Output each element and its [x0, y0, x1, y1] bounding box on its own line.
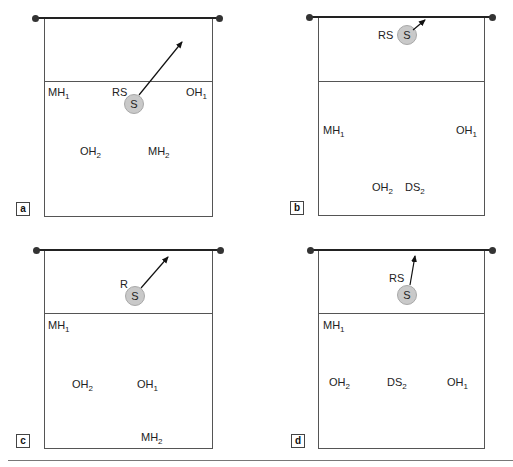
player-label-mh2: MH2 [148, 146, 170, 157]
player-label-oh2: OH2 [80, 146, 101, 157]
panel-label-a: a [16, 202, 30, 216]
player-label-mh1: MH1 [48, 320, 70, 331]
player-number: 1 [473, 130, 477, 139]
player-label-ds2: DS2 [405, 182, 425, 193]
setter-ball-icon: S [125, 286, 145, 306]
player-number: 2 [389, 187, 393, 196]
player-number: 1 [340, 325, 344, 334]
player-number: 1 [65, 325, 69, 334]
player-number: 2 [89, 384, 93, 393]
attack-line [318, 81, 484, 82]
player-role: OH [456, 124, 473, 136]
net-line [310, 249, 492, 251]
net-post-left [307, 247, 314, 254]
player-label-oh1: OH1 [137, 379, 158, 390]
net-post-left [33, 247, 40, 254]
player-label-oh1: OH1 [186, 87, 207, 98]
player-label-oh1: OH1 [456, 125, 477, 136]
attack-line [44, 313, 212, 314]
player-role: DS [405, 181, 420, 193]
player-number: 1 [65, 92, 69, 101]
player-role: OH [137, 378, 154, 390]
player-role: MH [323, 319, 340, 331]
net-post-right [216, 15, 223, 22]
setter-ball-icon: S [124, 94, 144, 114]
player-role: RS [389, 272, 404, 284]
player-label-ds2: DS2 [387, 377, 407, 388]
court-outline [318, 16, 485, 216]
bottom-rule [8, 460, 513, 461]
net-line [35, 17, 219, 19]
player-number: 2 [97, 151, 101, 160]
player-label-rs: RS [112, 87, 127, 98]
player-role: OH [80, 145, 97, 157]
net-post-left [32, 15, 39, 22]
player-role: OH [372, 181, 389, 193]
player-label-rs: RS [378, 30, 393, 41]
player-label-mh2: MH2 [141, 432, 163, 443]
court-outline [44, 249, 213, 449]
player-role: MH [48, 86, 65, 98]
player-role: MH [48, 319, 65, 331]
player-number: 1 [203, 92, 207, 101]
player-number: 2 [158, 437, 162, 446]
player-label-oh2: OH2 [72, 379, 93, 390]
player-number: 2 [165, 151, 169, 160]
panel-label-b: b [290, 201, 304, 215]
net-post-right [217, 247, 224, 254]
player-role: OH [447, 376, 464, 388]
player-role: DS [387, 376, 402, 388]
player-number: 1 [154, 384, 158, 393]
player-role: MH [148, 145, 165, 157]
player-label-oh2: OH2 [372, 182, 393, 193]
player-role: RS [112, 86, 127, 98]
player-label-oh1: OH1 [447, 377, 468, 388]
net-line [36, 249, 220, 251]
player-number: 2 [402, 382, 406, 391]
net-post-left [306, 14, 313, 21]
volleyball-rotation-figure: MH1RSOH1OH2MH2SaRSMH1OH1OH2DS2SbRMH1OH2O… [0, 0, 513, 467]
court-outline [44, 17, 213, 217]
player-role: MH [141, 431, 158, 443]
attack-line [318, 313, 484, 314]
player-number: 1 [464, 382, 468, 391]
player-number: 2 [346, 382, 350, 391]
player-role: MH [323, 124, 340, 136]
player-role: OH [72, 378, 89, 390]
net-line [309, 16, 492, 18]
player-number: 2 [420, 187, 424, 196]
player-label-oh2: OH2 [329, 377, 350, 388]
setter-ball-icon: S [397, 25, 417, 45]
player-role: OH [186, 86, 203, 98]
player-label-mh1: MH1 [323, 320, 345, 331]
net-post-right [489, 247, 496, 254]
player-role: RS [378, 29, 393, 41]
panel-label-c: c [16, 434, 30, 448]
player-label-mh1: MH1 [323, 125, 345, 136]
player-label-mh1: MH1 [48, 87, 70, 98]
panel-label-d: d [291, 434, 305, 448]
net-post-right [489, 14, 496, 21]
player-number: 1 [340, 130, 344, 139]
setter-ball-icon: S [397, 285, 417, 305]
player-role: OH [329, 376, 346, 388]
player-label-rs: RS [389, 273, 404, 284]
attack-line [44, 81, 212, 82]
